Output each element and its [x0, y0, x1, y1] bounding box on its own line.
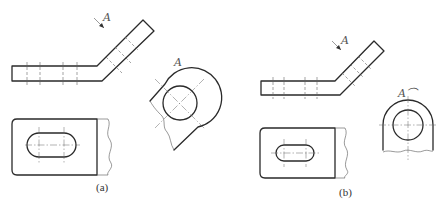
caption-a: (a) — [96, 181, 109, 194]
view-arrow-label: A — [102, 11, 111, 24]
caption-b: (b) — [339, 186, 352, 199]
technical-drawing: A A — [0, 0, 442, 211]
plate-b — [260, 128, 348, 178]
view-arrow-label: A — [340, 34, 349, 47]
drawing-svg: A A — [0, 0, 442, 211]
aux-view-label: A — [173, 56, 182, 69]
panel-a: A A — [12, 11, 222, 194]
panel-b: A A⌒ (b) — [260, 34, 437, 199]
bent-bar-a — [12, 20, 154, 85]
view-arrow-a: A — [94, 11, 111, 28]
aux-view-b: A⌒ — [379, 87, 437, 160]
view-arrow-b: A — [332, 34, 349, 50]
plate-a — [12, 119, 112, 175]
aux-view-a: A — [150, 56, 222, 150]
bent-bar-b — [261, 41, 384, 99]
